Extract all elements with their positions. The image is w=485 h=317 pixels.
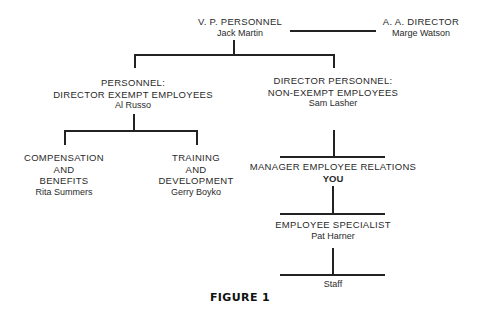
node-title-line: PERSONNEL: bbox=[53, 77, 213, 89]
connector-es-down bbox=[332, 248, 334, 275]
figure-caption: FIGURE 1 bbox=[210, 291, 270, 304]
node-director-nonexempt: DIRECTOR PERSONNEL: NON-EXEMPT EMPLOYEES… bbox=[268, 75, 398, 110]
node-aa-director: A. A. DIRECTOR Marge Watson bbox=[383, 16, 459, 39]
connector-es-bar bbox=[280, 213, 385, 215]
node-title-line: DEVELOPMENT bbox=[158, 175, 233, 187]
connector-exempt-down bbox=[133, 114, 135, 131]
node-title: A. A. DIRECTOR bbox=[383, 16, 459, 28]
connector-exempt-branch bbox=[64, 130, 197, 132]
connector-to-nonexempt bbox=[333, 54, 335, 68]
node-title-line: DIRECTOR EXEMPT EMPLOYEES bbox=[53, 89, 213, 101]
node-title-line: DIRECTOR PERSONNEL: bbox=[268, 75, 398, 87]
node-title-line: BENEFITS bbox=[24, 175, 104, 187]
node-title: Staff bbox=[324, 279, 342, 291]
node-title: V. P. PERSONNEL bbox=[198, 16, 282, 28]
node-staff: Staff bbox=[324, 279, 342, 291]
node-person: Rita Summers bbox=[24, 187, 104, 199]
node-person-you: YOU bbox=[250, 173, 417, 185]
connector-vp-down bbox=[233, 40, 235, 55]
connector-mer-bar bbox=[280, 156, 385, 158]
node-manager-employee-relations: MANAGER EMPLOYEE RELATIONS YOU bbox=[250, 161, 417, 184]
connector-mer-down bbox=[332, 186, 334, 213]
node-vp-personnel: V. P. PERSONNEL Jack Martin bbox=[198, 16, 282, 39]
connector-to-exempt bbox=[134, 54, 136, 68]
node-director-exempt: PERSONNEL: DIRECTOR EXEMPT EMPLOYEES Al … bbox=[53, 77, 213, 112]
node-title-line: TRAINING bbox=[158, 152, 233, 164]
node-person: Al Russo bbox=[53, 100, 213, 112]
node-person: Gerry Boyko bbox=[158, 187, 233, 199]
connector-to-comp bbox=[64, 130, 66, 145]
node-person: Pat Harner bbox=[275, 231, 391, 243]
node-title-line: AND bbox=[158, 164, 233, 176]
node-compensation-benefits: COMPENSATION AND BENEFITS Rita Summers bbox=[24, 152, 104, 198]
connector-vp-branch bbox=[134, 54, 334, 56]
connector-nonexempt-down bbox=[333, 130, 335, 157]
node-person: Jack Martin bbox=[198, 28, 282, 40]
node-title: MANAGER EMPLOYEE RELATIONS bbox=[250, 161, 417, 173]
node-title: EMPLOYEE SPECIALIST bbox=[275, 219, 391, 231]
connector-vp-aa bbox=[290, 30, 376, 32]
node-person: Sam Lasher bbox=[268, 98, 398, 110]
node-title-line: COMPENSATION bbox=[24, 152, 104, 164]
connector-to-training bbox=[196, 130, 198, 145]
node-title-line: AND bbox=[24, 164, 104, 176]
node-person: Marge Watson bbox=[383, 28, 459, 40]
node-title-line: NON-EXEMPT EMPLOYEES bbox=[268, 87, 398, 99]
connector-staff-bar bbox=[280, 274, 385, 276]
node-training-development: TRAINING AND DEVELOPMENT Gerry Boyko bbox=[158, 152, 233, 198]
node-employee-specialist: EMPLOYEE SPECIALIST Pat Harner bbox=[275, 219, 391, 242]
